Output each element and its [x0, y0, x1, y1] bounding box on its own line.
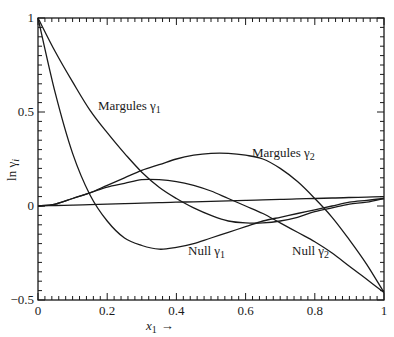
curve-reference-line: [38, 197, 384, 206]
svg-text:0.5: 0.5: [18, 104, 34, 119]
curve-margules-2: [38, 153, 384, 292]
label-null-gamma2: Null γ2: [292, 243, 329, 260]
label-margules-gamma1: Margules γ1: [98, 98, 161, 115]
x-axis-label: x1→: [145, 318, 174, 335]
curve-null-2: [38, 179, 384, 292]
svg-text:0.2: 0.2: [99, 303, 115, 318]
label-margules-gamma2: Margules γ2: [252, 145, 315, 162]
activity-coefficient-chart: 00.20.40.60.81−0.500.51 ln γi x1→ Margul…: [0, 0, 394, 337]
tick-labels: 00.20.40.60.81−0.500.51: [10, 10, 387, 318]
svg-text:0.6: 0.6: [237, 303, 254, 318]
svg-text:0.8: 0.8: [307, 303, 323, 318]
label-null-gamma1: Null γ1: [188, 243, 225, 260]
svg-text:0: 0: [28, 198, 35, 213]
svg-text:−0.5: −0.5: [10, 292, 34, 307]
curve-null-1: [38, 18, 384, 249]
svg-text:0.4: 0.4: [168, 303, 185, 318]
svg-text:1: 1: [28, 10, 35, 25]
svg-text:0: 0: [35, 303, 42, 318]
svg-text:1: 1: [381, 303, 388, 318]
y-axis-label: ln γi: [4, 159, 21, 181]
